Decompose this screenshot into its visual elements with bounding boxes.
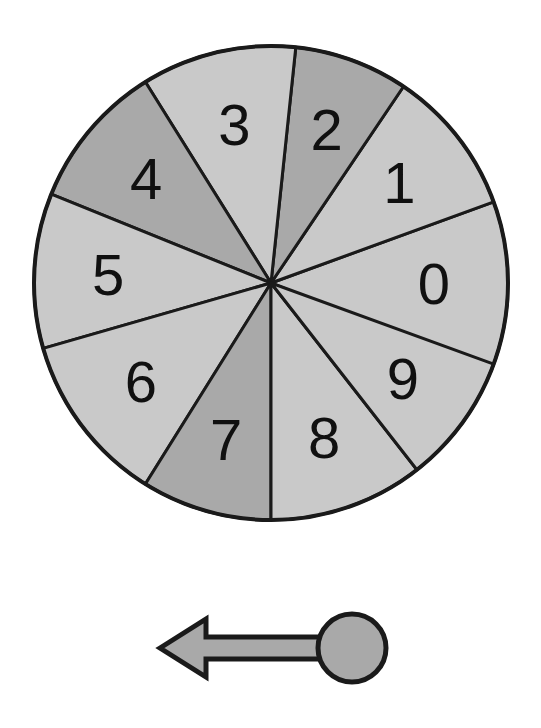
spinner-pointer[interactable] (0, 0, 541, 728)
spinner-page: 0123456789 (0, 0, 541, 728)
pointer-hub-circle[interactable] (318, 614, 386, 682)
